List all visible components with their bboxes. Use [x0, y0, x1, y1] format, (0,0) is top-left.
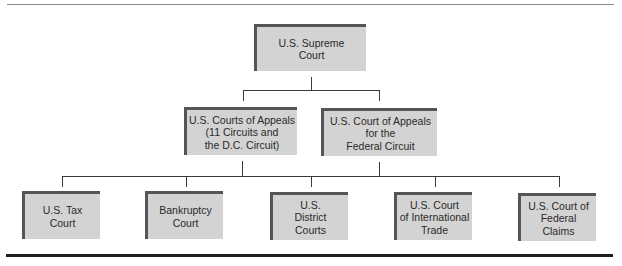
- node-label: U.S. Court of International Trade: [400, 199, 469, 237]
- top-rule: [7, 4, 614, 5]
- connector-to-tax: [62, 176, 63, 187]
- node-label: U.S. Court of Federal Claims: [528, 200, 589, 238]
- node-label: U.S. Supreme Court: [279, 37, 345, 62]
- node-supreme-court: U.S. Supreme Court: [254, 24, 366, 71]
- bottom-rule: [6, 254, 613, 257]
- connector-to-federal-claims: [559, 176, 560, 187]
- connector-to-appeals: [243, 90, 244, 101]
- node-label: U.S. Courts of Appeals (11 Circuits and …: [189, 114, 295, 152]
- connector-appeals-down: [242, 161, 243, 176]
- node-international-trade: U.S. Court of International Trade: [394, 192, 472, 240]
- connector-to-federal-circuit: [379, 90, 380, 101]
- node-label: U.S. Tax Court: [43, 204, 83, 229]
- node-courts-of-appeals: U.S. Courts of Appeals (11 Circuits and …: [184, 107, 297, 155]
- connector-to-district: [311, 176, 312, 187]
- connector-federal-circuit-down: [379, 162, 380, 176]
- node-tax-court: U.S. Tax Court: [22, 191, 100, 239]
- node-federal-circuit: U.S. Court of Appeals for the Federal Ci…: [321, 108, 437, 156]
- node-federal-claims: U.S. Court of Federal Claims: [518, 193, 596, 241]
- connector-supreme-down: [311, 77, 312, 91]
- node-district-courts: U.S. District Courts: [270, 192, 348, 240]
- node-label: U.S. Court of Appeals for the Federal Ci…: [330, 115, 431, 153]
- node-label: Bankruptcy Court: [159, 204, 212, 229]
- connector-level2-horizontal: [243, 90, 380, 91]
- connector-to-intl-trade: [435, 176, 436, 187]
- node-label: U.S. District Courts: [294, 199, 326, 237]
- connector-to-bankruptcy: [186, 176, 187, 187]
- node-bankruptcy-court: Bankruptcy Court: [145, 191, 223, 239]
